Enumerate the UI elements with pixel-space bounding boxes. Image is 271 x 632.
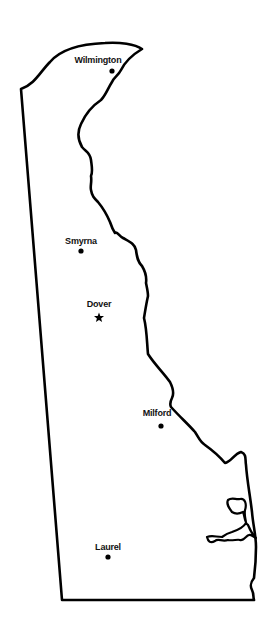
rehoboth-bay (207, 499, 256, 543)
milford-dot-icon (158, 423, 163, 428)
dover-star-icon (94, 313, 104, 323)
city-label-dover: Dover (87, 299, 112, 309)
city-label-laurel: Laurel (95, 542, 121, 552)
city-markers (78, 68, 163, 559)
delaware-map (0, 0, 271, 632)
smyrna-dot-icon (78, 248, 83, 253)
city-label-smyrna: Smyrna (65, 236, 97, 246)
wilmington-dot-icon (109, 68, 114, 73)
city-label-wilmington: Wilmington (75, 55, 122, 65)
city-label-milford: Milford (143, 408, 172, 418)
laurel-dot-icon (105, 554, 110, 559)
state-outline (21, 43, 256, 600)
